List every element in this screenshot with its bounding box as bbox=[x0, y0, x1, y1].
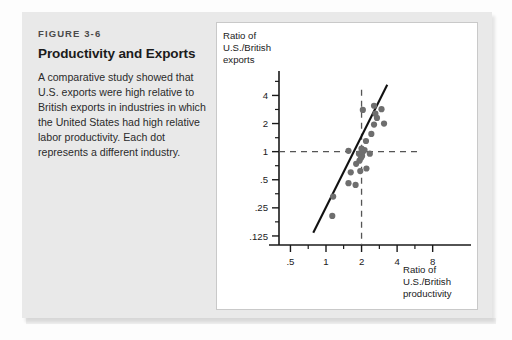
chart-panel: Ratio ofU.S./BritishexportsRatio ofU.S./… bbox=[216, 22, 478, 310]
x-axis-title-line: productivity bbox=[403, 288, 452, 299]
x-axis-tick-label: 4 bbox=[394, 256, 400, 267]
figure-title: Productivity and Exports bbox=[38, 46, 214, 61]
figure-text-column: FIGURE 3-6 Productivity and Exports A co… bbox=[38, 28, 214, 161]
scatter-plot: Ratio ofU.S./BritishexportsRatio ofU.S./… bbox=[217, 23, 475, 307]
y-axis-title-line: U.S./British bbox=[223, 42, 271, 53]
data-point bbox=[345, 148, 351, 154]
data-point bbox=[358, 145, 364, 151]
y-axis-tick-label: 1 bbox=[263, 146, 268, 157]
data-point bbox=[372, 111, 378, 117]
data-point bbox=[368, 131, 374, 137]
data-point bbox=[348, 169, 354, 175]
figure-number: FIGURE 3-6 bbox=[38, 28, 214, 39]
data-point bbox=[360, 107, 366, 113]
x-axis-tick-label: 1 bbox=[323, 256, 328, 267]
data-point bbox=[378, 106, 384, 112]
y-axis-tick-label: 2 bbox=[263, 118, 268, 129]
y-axis-title-line: Ratio of bbox=[223, 30, 256, 41]
y-axis-title-line: exports bbox=[223, 54, 255, 65]
figure-card: FIGURE 3-6 Productivity and Exports A co… bbox=[22, 12, 492, 318]
x-axis-tick-label: .5 bbox=[286, 256, 294, 267]
card-shadow bbox=[26, 318, 496, 324]
y-axis-tick-label: .125 bbox=[249, 231, 268, 242]
data-point bbox=[367, 151, 373, 157]
data-point bbox=[363, 165, 369, 171]
y-axis-tick-label: 4 bbox=[263, 90, 269, 101]
data-point bbox=[363, 138, 369, 144]
y-axis-tick-label: .5 bbox=[260, 174, 268, 185]
x-axis-title-line: U.S./British bbox=[403, 276, 451, 287]
data-point bbox=[371, 121, 377, 127]
data-point bbox=[381, 120, 387, 126]
data-point bbox=[329, 213, 335, 219]
data-point bbox=[345, 180, 351, 186]
data-point bbox=[357, 168, 363, 174]
figure-caption: A comparative study showed that U.S. exp… bbox=[38, 70, 214, 161]
data-point bbox=[330, 193, 336, 199]
data-point bbox=[371, 103, 377, 109]
x-axis-tick-label: 2 bbox=[359, 256, 364, 267]
y-axis-tick-label: .25 bbox=[255, 202, 268, 213]
data-point bbox=[352, 182, 358, 188]
x-axis-tick-label: 8 bbox=[430, 256, 435, 267]
